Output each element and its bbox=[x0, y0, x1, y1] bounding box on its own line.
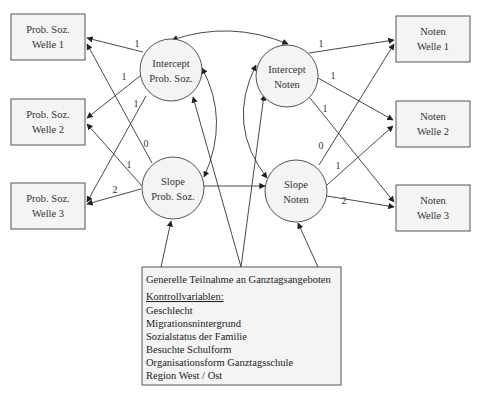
covariates-heading: Kontrollvariablen: bbox=[146, 291, 224, 302]
covariate-item: Organisationsform Ganztagsschule bbox=[146, 357, 293, 368]
node-label: Noten bbox=[283, 194, 309, 205]
node-label: Noten bbox=[420, 26, 446, 37]
loading-slope-n-w2: 1 bbox=[336, 160, 341, 171]
latent-slope-noten: Slope Noten bbox=[265, 160, 327, 222]
node-label: Prob. Soz. bbox=[151, 191, 194, 202]
latent-intercept-prob-soz: Intercept Prob. Soz. bbox=[140, 39, 202, 101]
node-label: Noten bbox=[420, 195, 446, 206]
node-label: Intercept bbox=[152, 58, 189, 69]
edge-int-ps-w2 bbox=[87, 76, 140, 118]
loading-slope-ps-w1: 0 bbox=[144, 138, 149, 149]
node-label: Welle 1 bbox=[32, 39, 64, 50]
latent-slope-prob-soz: Slope Prob. Soz. bbox=[142, 157, 204, 219]
node-label: Intercept bbox=[268, 64, 305, 75]
node-label: Prob. Soz. bbox=[26, 24, 69, 35]
edge-slope-ps-w2 bbox=[87, 124, 142, 186]
edge-cov-int-n bbox=[241, 95, 264, 267]
node-label: Welle 2 bbox=[417, 126, 449, 137]
covariates-box: Generelle Teilnahme an Ganztagsangeboten… bbox=[142, 267, 341, 385]
edge-cov-slope-ps bbox=[161, 221, 171, 267]
node-label: Noten bbox=[420, 111, 446, 122]
covariate-item: Migrationsnintergrund bbox=[146, 318, 242, 329]
observed-prob-soz-welle-1: Prob. Soz. Welle 1 bbox=[11, 14, 85, 60]
observed-prob-soz-welle-2: Prob. Soz. Welle 2 bbox=[11, 99, 85, 145]
latent-intercept-noten: Intercept Noten bbox=[256, 45, 318, 107]
node-label: Prob. Soz. bbox=[26, 193, 69, 204]
loading-int-n-w3: 1 bbox=[323, 103, 328, 114]
loading-slope-n-w1: 0 bbox=[319, 140, 324, 151]
covariate-item: Geschlecht bbox=[146, 305, 193, 316]
node-label: Welle 3 bbox=[32, 208, 64, 219]
node-label: Prob. Soz. bbox=[149, 73, 192, 84]
edge-slope-n-w2 bbox=[327, 126, 393, 185]
edge-int-n-w2 bbox=[318, 78, 393, 120]
observed-noten-welle-1: Noten Welle 1 bbox=[396, 16, 470, 62]
covariate-item: Besuchte Schulform bbox=[146, 344, 231, 355]
node-label: Slope bbox=[284, 179, 308, 190]
edge-cov-slope-n bbox=[298, 223, 318, 267]
loading-slope-ps-w3: 2 bbox=[113, 184, 118, 195]
loading-int-n-w1: 1 bbox=[319, 38, 324, 49]
covariate-item: Region West / Ost bbox=[146, 370, 222, 381]
observed-prob-soz-welle-3: Prob. Soz. Welle 3 bbox=[11, 183, 85, 229]
observed-noten-welle-3: Noten Welle 3 bbox=[396, 185, 470, 231]
path-diagram: 1 1 1 0 1 2 1 1 1 0 1 2 Prob. Soz. Welle… bbox=[0, 0, 480, 396]
loading-slope-n-w3: 2 bbox=[342, 195, 347, 206]
loading-int-n-w2: 1 bbox=[331, 70, 336, 81]
node-label: Welle 1 bbox=[417, 41, 449, 52]
node-label: Prob. Soz. bbox=[26, 109, 69, 120]
edge-slope-n-w3 bbox=[327, 196, 394, 207]
node-label: Welle 3 bbox=[417, 210, 449, 221]
covariates-title: Generelle Teilnahme an Ganztagsangeboten bbox=[146, 274, 332, 285]
node-label: Slope bbox=[161, 176, 185, 187]
node-label: Noten bbox=[274, 79, 300, 90]
node-label: Welle 2 bbox=[32, 124, 64, 135]
edge-slope-n-w1 bbox=[319, 44, 394, 165]
loading-int-ps-w1: 1 bbox=[135, 38, 140, 49]
cov-int-ps-int-n bbox=[172, 31, 288, 44]
loading-int-ps-w2: 1 bbox=[122, 71, 127, 82]
loading-int-ps-w3: 1 bbox=[134, 98, 139, 109]
observed-noten-welle-2: Noten Welle 2 bbox=[396, 101, 470, 147]
cov-int-ps-slope-ps bbox=[202, 68, 217, 177]
covariate-item: Sozialstatus der Familie bbox=[146, 331, 247, 342]
loading-slope-ps-w2: 1 bbox=[127, 159, 132, 170]
